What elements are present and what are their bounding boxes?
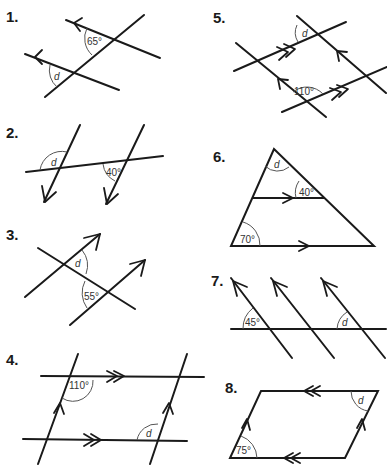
given-angle-q4: 110°	[69, 380, 89, 391]
given-angle-q1: 65°	[87, 36, 102, 47]
given-angle-q6-top: 40°	[299, 187, 314, 198]
worksheet-diagrams: 65° d d 40° d 55°	[0, 0, 387, 466]
diagram-q3: d 55°	[25, 234, 145, 325]
diagram-q2: d 40°	[26, 125, 163, 204]
arrow-icon	[42, 186, 56, 202]
diagram-q6: d 40° 70°	[231, 149, 374, 251]
diagram-q8: d 75°	[230, 386, 378, 463]
unknown-angle-q3: d	[75, 258, 81, 269]
given-angle-q3: 55°	[84, 291, 99, 302]
given-angle-q7: 45°	[245, 317, 260, 328]
given-angle-q8: 75°	[236, 445, 251, 456]
unknown-angle-q2: d	[51, 157, 57, 168]
diagram-q1: 65° d	[25, 15, 160, 97]
unknown-angle-q7: d	[342, 317, 348, 328]
unknown-angle-q6: d	[274, 159, 280, 170]
arrow-icon	[104, 188, 118, 204]
diagram-q4: 110° d	[23, 354, 204, 464]
unknown-angle-q8: d	[358, 395, 364, 406]
given-angle-q6-bottom: 70°	[240, 234, 255, 245]
given-angle-q5: 110°	[294, 86, 314, 97]
unknown-angle-q4: d	[146, 428, 152, 439]
diagram-q5: d 110°	[234, 16, 387, 117]
diagram-q7: 45° d	[231, 278, 386, 358]
unknown-angle-q5: d	[302, 28, 308, 39]
unknown-angle-q1: d	[54, 71, 60, 82]
arrow-icon	[35, 50, 42, 64]
given-angle-q2: 40°	[106, 167, 121, 178]
